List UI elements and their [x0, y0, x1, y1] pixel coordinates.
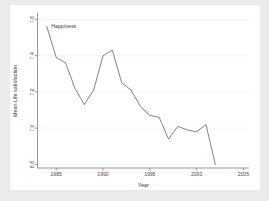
y-axis-title: Mean Life satisfaction [12, 65, 18, 117]
series-inline-label: Happiness [51, 23, 76, 29]
x-tick-label: 1995 [144, 171, 155, 177]
gridlines-group [38, 19, 250, 164]
y-tick-label: 6.8 [30, 161, 36, 168]
y-tick-label-group: 6.87.07.27.47.6 [30, 16, 36, 168]
x-tick-label: 2005 [238, 171, 249, 177]
y-tick-label: 7.0 [30, 124, 36, 131]
x-tick-label: 2000 [191, 171, 202, 177]
x-tick-label-group: 19851990199520002005 [51, 171, 250, 177]
x-tick-group [56, 168, 243, 171]
x-axis-title: Year [138, 182, 149, 188]
line-chart: 19851990199520002005 6.87.07.27.47.6 Hap… [0, 0, 269, 201]
x-tick-label: 1985 [51, 171, 62, 177]
y-tick-label: 7.2 [30, 88, 36, 95]
x-tick-label: 1990 [97, 171, 108, 177]
y-tick-label: 7.6 [30, 16, 36, 23]
y-tick-label: 7.4 [30, 52, 36, 59]
series-line-happiness [47, 27, 215, 165]
figure-container: 19851990199520002005 6.87.07.27.47.6 Hap… [0, 0, 269, 201]
axes-group [38, 13, 250, 168]
data-series-group [47, 27, 215, 165]
